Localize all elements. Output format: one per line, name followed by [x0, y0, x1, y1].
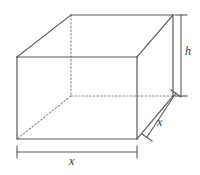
width-dimension-line: [17, 146, 137, 158]
depth-label: x: [157, 116, 162, 128]
rectangular-box-figure: h x x: [0, 0, 200, 175]
top-face-edges-group: [17, 15, 173, 57]
edge-top-left-diagonal: [17, 15, 71, 57]
edge-top-right-diagonal: [137, 15, 173, 57]
hidden-edge-back-bottom-left-diagonal: [17, 96, 71, 139]
depth-dimension-cap-near: [142, 134, 152, 141]
front-face-edges-group: [17, 57, 137, 139]
height-label: h: [185, 45, 191, 57]
width-label: x: [69, 155, 74, 167]
right-face-edges-group: [137, 15, 173, 139]
edge-bottom-right-diagonal: [137, 96, 173, 139]
hidden-edges-group: [17, 15, 173, 139]
box-drawing: [0, 0, 200, 175]
